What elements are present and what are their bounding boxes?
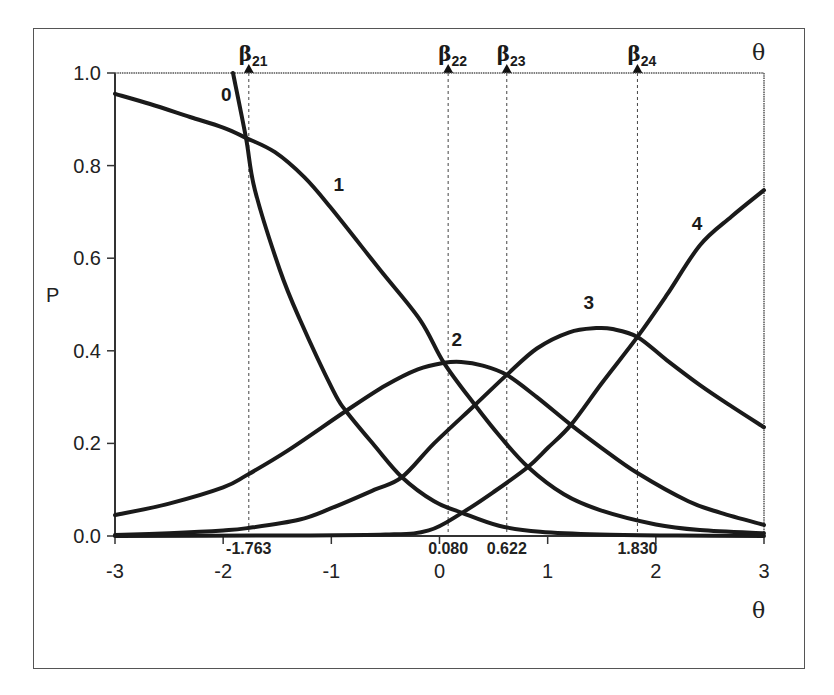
y-tick-label: 1.0 <box>73 62 101 84</box>
y-tick-label: 0.4 <box>73 340 101 362</box>
category-curve-0 <box>233 73 764 536</box>
x-tick-label: -3 <box>106 560 124 582</box>
threshold-name: β24 <box>627 42 656 69</box>
y-tick-label: 0.2 <box>73 432 101 454</box>
threshold-name: β23 <box>497 42 526 69</box>
item-characteristic-curves-chart: β21-1.763β220.080β230.622β241.830 0.00.2… <box>0 0 834 695</box>
threshold-value-label: 1.830 <box>617 540 657 557</box>
y-tick-label: 0.6 <box>73 247 101 269</box>
x-axis-label: θ <box>752 598 765 623</box>
curve-label-2: 2 <box>452 329 463 350</box>
curve-label-1: 1 <box>334 174 345 195</box>
x-tick-label: 3 <box>758 560 769 582</box>
threshold-value-label: -1.763 <box>226 540 271 557</box>
threshold-name: β22 <box>438 42 467 69</box>
curve-label-0: 0 <box>221 84 232 105</box>
x-tick-label: -2 <box>214 560 232 582</box>
curve-labels: 01234 <box>221 84 703 350</box>
x-tick-label: 2 <box>650 560 661 582</box>
threshold-value-label: 0.080 <box>428 540 468 557</box>
axes <box>115 73 764 536</box>
x-tick-label: 0 <box>434 560 445 582</box>
x-tick-label: -1 <box>322 560 340 582</box>
y-tick-label: 0.8 <box>73 155 101 177</box>
curves <box>115 73 764 536</box>
x-tick-label: 1 <box>542 560 553 582</box>
category-curve-1 <box>115 94 764 533</box>
threshold-value-label: 0.622 <box>487 540 527 557</box>
category-curve-2 <box>115 362 764 525</box>
curve-label-4: 4 <box>692 213 703 234</box>
y-tick-label: 0.0 <box>73 525 101 547</box>
y-axis-label: P <box>46 284 59 306</box>
top-axis-label: θ <box>752 40 765 65</box>
curve-label-3: 3 <box>583 292 594 313</box>
threshold-name: β21 <box>239 42 268 69</box>
